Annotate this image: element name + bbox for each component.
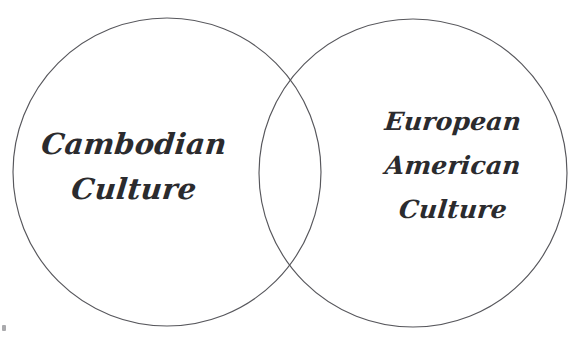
venn-label-left-line-1: Cambodian (16, 122, 253, 167)
venn-label-left-line-2: Culture (16, 167, 253, 212)
venn-label-right-line-2: American (353, 144, 554, 188)
venn-label-right-line-1: European (353, 100, 554, 144)
venn-label-left: Cambodian Culture (18, 122, 250, 212)
venn-label-right-line-3: Culture (353, 188, 554, 232)
venn-label-right: European American Culture (355, 100, 551, 232)
venn-diagram-canvas: Cambodian Culture European American Cult… (0, 0, 583, 343)
stray-ink-mark-icon (2, 325, 6, 331)
